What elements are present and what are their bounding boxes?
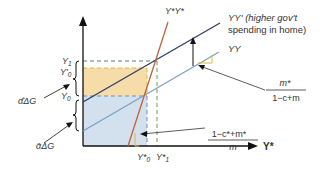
y0-label: Y0	[61, 91, 71, 102]
y0-sub: 0	[67, 95, 71, 102]
brace-lower	[73, 100, 79, 131]
y0p-sub: 0	[68, 71, 72, 78]
yy-slope-denominator: 1−c+m	[272, 93, 300, 103]
ys1-sub: 1	[166, 156, 170, 163]
ys0-main: Y*	[137, 152, 147, 162]
ystar-label: Y*Y*	[165, 6, 185, 16]
blue-area	[83, 96, 147, 146]
ys0-label: Y*0	[137, 152, 151, 163]
yy-prime-label-line1: YY' (higher gov't	[228, 12, 297, 23]
yy-diagram: Y*Y* YY' (higher gov't spending in home)…	[0, 0, 332, 180]
ys0-sub: 0	[147, 156, 151, 163]
yy-slope-pointer	[200, 66, 265, 90]
orange-area	[83, 68, 147, 96]
yy-prime-label: YY' (higher gov't	[228, 12, 297, 23]
yy-slope-triangle	[198, 55, 212, 63]
yy-label: YY	[228, 43, 241, 54]
y1-label: Y1	[62, 56, 72, 67]
ys1-label: Y*1	[156, 152, 170, 163]
ystar-slope-denominator: m	[229, 142, 237, 152]
alpha-hat-label: α̂ΔG	[18, 96, 36, 106]
y0-prime-label: Y'0	[60, 67, 72, 78]
x-axis-label: Y*	[263, 141, 274, 152]
yy-slope-pointer-head	[198, 65, 205, 70]
x-axis-arrowhead	[248, 142, 258, 150]
y1-sub: 1	[68, 60, 72, 67]
alpha-bar-label: ᾱΔG	[36, 141, 54, 151]
brace-upper	[73, 61, 79, 96]
ystar-slope-numerator: 1−c*+m*	[212, 129, 247, 139]
ys1-main: Y*	[156, 152, 166, 162]
yy-slope-numerator: m*	[280, 78, 291, 88]
ystar-slope-pointer	[142, 128, 205, 134]
y-axis-arrowhead	[79, 16, 87, 26]
alpha-bar-pointer-head	[66, 122, 73, 128]
yy-prime-label-line2: spending in home)	[228, 24, 306, 35]
